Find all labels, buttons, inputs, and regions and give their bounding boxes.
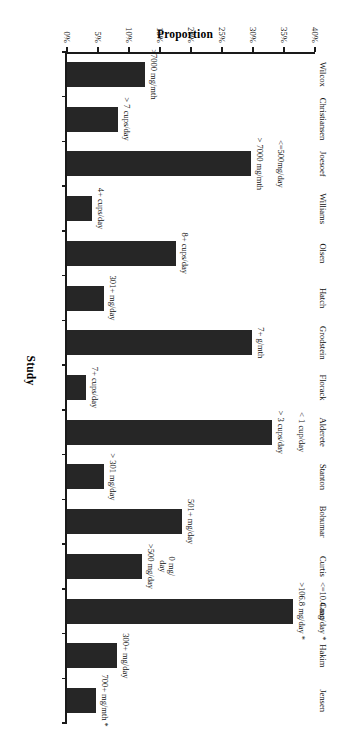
category-axis-tick xyxy=(62,678,67,680)
value-axis-tick-label: 30% xyxy=(248,27,258,43)
value-axis-tick-label: 25% xyxy=(217,27,227,43)
category-axis-tick xyxy=(62,633,67,635)
category-axis-tick xyxy=(62,185,67,187)
category-axis-tick xyxy=(62,364,67,366)
category-axis-label: Florack xyxy=(318,375,328,401)
bar xyxy=(67,464,104,489)
category-axis-tick xyxy=(62,454,67,456)
category-axis-label: Curtis xyxy=(318,556,328,577)
value-axis-tick xyxy=(159,47,161,52)
bar-value-label: 301+ mg/day xyxy=(109,275,118,320)
category-axis-label: Stanton xyxy=(318,464,328,490)
value-axis-tick xyxy=(252,47,254,52)
reference-group-label: < 1 cup/day xyxy=(297,412,306,452)
category-axis-tick xyxy=(62,51,67,53)
chart-figure: 0%5%10%15%20%25%30%35%40% Proportion Wil… xyxy=(0,0,337,741)
category-axis-tick xyxy=(62,543,67,545)
value-axis-tick xyxy=(128,47,130,52)
category-axis-label: Jensen xyxy=(318,689,328,712)
bar-value-label: > 301 mg/day xyxy=(109,453,118,500)
category-axis-label: Alderete xyxy=(318,418,328,447)
category-axis-tick xyxy=(62,230,67,232)
category-axis-tick xyxy=(62,141,67,143)
reference-group-label: <=10.4 mg/day * xyxy=(319,582,328,640)
value-axis-tick-label: 0% xyxy=(62,31,72,43)
bar xyxy=(67,196,92,221)
plot-area: 0%5%10%15%20%25%30%35%40% Proportion Wil… xyxy=(0,0,337,741)
category-axis-label: Bohumar xyxy=(318,506,328,538)
value-axis-tick xyxy=(314,47,316,52)
bar-value-label: > 7000 mg/mth xyxy=(255,138,264,191)
bar-value-label: 700+ mg/mth * xyxy=(100,674,109,727)
bar-value-label: 4+ cups/day xyxy=(96,188,105,229)
category-axis-label: Williams xyxy=(318,193,328,224)
bar-value-label: >7000 mg/mth xyxy=(149,49,158,99)
bar-value-label: 501+ mg/day xyxy=(187,499,196,544)
value-axis-tick xyxy=(190,47,192,52)
category-axis-tick xyxy=(62,722,67,724)
category-axis-label: Olsen xyxy=(318,243,328,263)
category-axis-tick xyxy=(62,275,67,277)
bar-value-label: >106.8 mg/day * xyxy=(298,582,307,640)
category-axis-label: Hatch xyxy=(318,288,328,308)
category-axis-label: Wilcox xyxy=(318,62,328,87)
category-axis-tick xyxy=(62,499,67,501)
bar xyxy=(67,643,117,668)
value-axis-tick-label: 5% xyxy=(93,31,103,43)
category-axis-tick xyxy=(62,96,67,98)
bar xyxy=(67,599,293,624)
category-axis-label: Joesoef xyxy=(318,151,328,177)
value-axis-tick-label: 40% xyxy=(310,27,320,43)
bar xyxy=(67,330,252,355)
bar xyxy=(67,286,104,311)
value-axis-line xyxy=(67,52,315,54)
category-axis-tick xyxy=(62,409,67,411)
category-axis-title: Study xyxy=(25,0,37,741)
bar xyxy=(67,375,86,400)
bar xyxy=(67,241,176,266)
bar xyxy=(67,554,142,579)
bar xyxy=(67,151,251,176)
bar xyxy=(67,688,96,713)
bar xyxy=(67,107,118,132)
bar-value-label: 7+ cups/day xyxy=(91,367,100,408)
category-axis-label: Hakim xyxy=(318,644,328,667)
bar-value-label: 8+ cups/day xyxy=(180,233,189,274)
category-axis-label: Christiansen xyxy=(318,98,328,141)
bar xyxy=(67,62,145,87)
bar-value-label: > 3 cups/day xyxy=(276,410,285,454)
value-axis-tick xyxy=(283,47,285,52)
bar-value-label: > 7 cups/day xyxy=(123,97,132,141)
bar xyxy=(67,509,182,534)
value-axis-tick-label: 35% xyxy=(279,27,289,43)
value-axis-tick xyxy=(221,47,223,52)
category-axis-tick xyxy=(62,588,67,590)
category-axis-tick xyxy=(62,320,67,322)
bar xyxy=(67,420,272,445)
bar-value-label: 7+ g/mth xyxy=(257,327,266,358)
value-axis-tick xyxy=(97,47,99,52)
bar-value-label: 300+ mg/day xyxy=(122,633,131,678)
reference-group-label: 0 mg/ day xyxy=(159,557,176,577)
bar-value-label: >500 mg/day xyxy=(146,544,155,589)
reference-group-label: <=500mg/day xyxy=(276,140,285,188)
value-axis-tick-label: 10% xyxy=(124,27,134,43)
category-axis-label: Grodstein xyxy=(318,326,328,360)
value-axis-title: Proportion xyxy=(157,28,213,40)
